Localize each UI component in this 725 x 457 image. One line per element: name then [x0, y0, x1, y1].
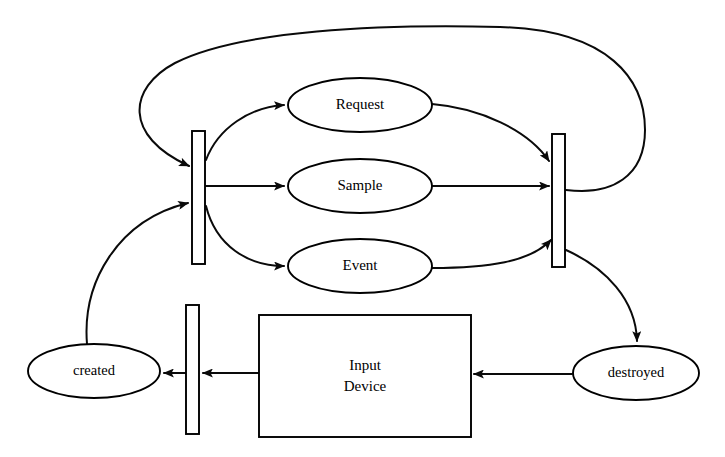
- node-label-request: Request: [336, 96, 385, 112]
- edge-request-to-join: [432, 104, 549, 161]
- node-label-created: created: [73, 362, 116, 378]
- node-label-input-device-line2: Device: [344, 378, 387, 394]
- node-input-device[interactable]: [259, 315, 471, 437]
- node-label-destroyed: destroyed: [608, 364, 665, 380]
- node-label-event: Event: [343, 257, 379, 273]
- edge-join-to-destroyed: [566, 250, 637, 341]
- sync-bar-bottom[interactable]: [186, 305, 199, 434]
- diagram-svg: Request Sample Event created destroyed I…: [0, 0, 725, 457]
- edge-fork-to-event: [206, 206, 284, 266]
- diagram-canvas: Request Sample Event created destroyed I…: [0, 0, 725, 457]
- node-label-input-device-line1: Input: [349, 357, 381, 373]
- edge-event-to-join: [432, 240, 551, 268]
- fork-bar-left[interactable]: [192, 131, 205, 264]
- edge-created-to-fork: [87, 203, 188, 344]
- edge-fork-to-request: [206, 105, 284, 160]
- node-label-sample: Sample: [338, 177, 383, 193]
- join-bar-right[interactable]: [552, 134, 565, 267]
